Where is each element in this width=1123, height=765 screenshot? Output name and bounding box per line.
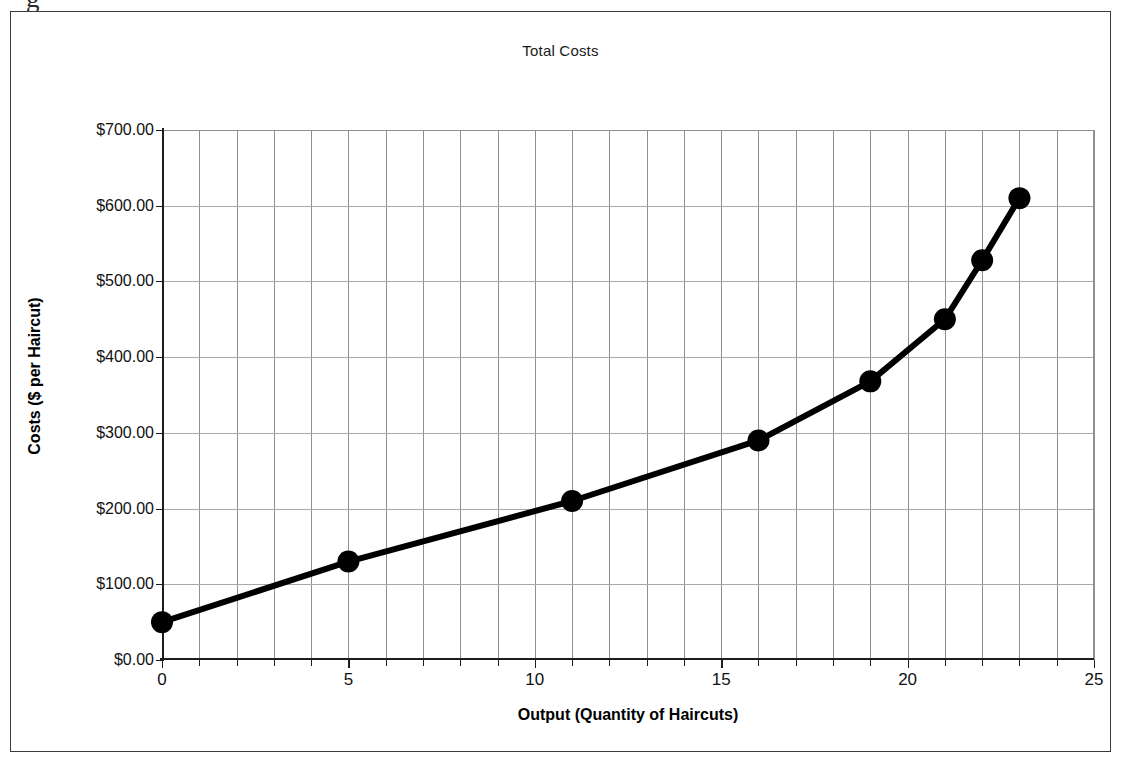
x-axis-tick-minor bbox=[796, 660, 797, 666]
plot-area-wrapper bbox=[162, 130, 1094, 660]
x-axis-tick-minor bbox=[833, 660, 834, 666]
gridline-vertical bbox=[498, 130, 499, 660]
x-axis-title: Output (Quantity of Haircuts) bbox=[162, 706, 1094, 724]
x-axis-tick-label: 10 bbox=[525, 670, 544, 690]
gridline-vertical bbox=[572, 130, 573, 660]
y-axis-tick-label: $400.00 bbox=[96, 348, 154, 366]
x-axis-tick-major bbox=[1094, 660, 1095, 668]
gridline-vertical bbox=[796, 130, 797, 660]
gridline-horizontal bbox=[162, 433, 1094, 434]
x-axis-tick-minor bbox=[758, 660, 759, 666]
x-axis-line bbox=[160, 658, 1094, 660]
gridline-vertical bbox=[199, 130, 200, 660]
x-axis-tick-minor bbox=[647, 660, 648, 666]
gridline-vertical bbox=[721, 130, 722, 660]
x-axis-tick-label: 15 bbox=[712, 670, 731, 690]
x-axis-tick-minor bbox=[1057, 660, 1058, 666]
x-axis-tick-minor bbox=[982, 660, 983, 666]
gridline-vertical bbox=[684, 130, 685, 660]
y-axis-tick-label: $700.00 bbox=[96, 121, 154, 139]
gridline-vertical bbox=[423, 130, 424, 660]
y-axis-tick-label: $600.00 bbox=[96, 197, 154, 215]
y-axis-tick-labels: $0.00$100.00$200.00$300.00$400.00$500.00… bbox=[66, 130, 154, 660]
series-line bbox=[162, 198, 1019, 622]
x-axis-tick-minor bbox=[460, 660, 461, 666]
x-axis-tick-labels: 0510152025 bbox=[162, 670, 1094, 696]
gridline-vertical bbox=[1094, 130, 1095, 660]
gridline-vertical bbox=[535, 130, 536, 660]
y-axis-tick-label: $0.00 bbox=[114, 651, 154, 669]
y-axis-tick-label: $200.00 bbox=[96, 500, 154, 518]
x-axis-tick-minor bbox=[199, 660, 200, 666]
y-axis-tick-label: $500.00 bbox=[96, 272, 154, 290]
x-axis-tick-minor bbox=[870, 660, 871, 666]
figure-frame: Total Costs $0.00$100.00$200.00$300.00$4… bbox=[10, 11, 1111, 752]
gridline-vertical bbox=[758, 130, 759, 660]
x-axis-tick-minor bbox=[423, 660, 424, 666]
y-axis-title: Costs ($ per Haircut) bbox=[26, 246, 44, 506]
gridline-horizontal bbox=[162, 357, 1094, 358]
x-axis-tick-major bbox=[721, 660, 722, 668]
gridline-vertical bbox=[237, 130, 238, 660]
gridline-vertical bbox=[386, 130, 387, 660]
gridline-vertical bbox=[1019, 130, 1020, 660]
gridline-vertical bbox=[982, 130, 983, 660]
plot-border-top bbox=[162, 130, 1094, 131]
gridline-vertical bbox=[945, 130, 946, 660]
x-axis-tick-major bbox=[162, 660, 163, 668]
x-axis-tick-label: 5 bbox=[344, 670, 353, 690]
gridline-horizontal bbox=[162, 584, 1094, 585]
gridline-vertical bbox=[908, 130, 909, 660]
x-axis-tick-label: 0 bbox=[157, 670, 166, 690]
x-axis-tick-major bbox=[535, 660, 536, 668]
x-axis-tick-minor bbox=[609, 660, 610, 666]
gridline-horizontal bbox=[162, 509, 1094, 510]
x-axis-tick-major bbox=[908, 660, 909, 668]
gridline-horizontal bbox=[162, 281, 1094, 282]
gridline-vertical bbox=[870, 130, 871, 660]
x-axis-tick-label: 20 bbox=[898, 670, 917, 690]
plot-border-right bbox=[1093, 130, 1094, 660]
x-axis-tick-minor bbox=[498, 660, 499, 666]
gridline-vertical bbox=[460, 130, 461, 660]
gridline-vertical bbox=[609, 130, 610, 660]
x-axis-tick-minor bbox=[386, 660, 387, 666]
plot-area bbox=[162, 130, 1094, 660]
gridline-vertical bbox=[348, 130, 349, 660]
gridline-vertical bbox=[311, 130, 312, 660]
x-axis-tick-minor bbox=[945, 660, 946, 666]
x-axis-tick-minor bbox=[311, 660, 312, 666]
gridline-vertical bbox=[647, 130, 648, 660]
x-axis-tick-minor bbox=[684, 660, 685, 666]
x-axis-tick-label: 25 bbox=[1085, 670, 1104, 690]
x-axis-tick-minor bbox=[1019, 660, 1020, 666]
y-axis-tick-label: $100.00 bbox=[96, 575, 154, 593]
x-axis-tick-minor bbox=[274, 660, 275, 666]
gridline-vertical bbox=[274, 130, 275, 660]
y-axis-tick-label: $300.00 bbox=[96, 424, 154, 442]
series-total-costs bbox=[162, 130, 1094, 660]
x-axis-tick-minor bbox=[572, 660, 573, 666]
gridline-horizontal bbox=[162, 206, 1094, 207]
y-axis-line bbox=[162, 128, 164, 661]
gridline-vertical bbox=[1057, 130, 1058, 660]
x-axis-tick-minor bbox=[237, 660, 238, 666]
gridline-vertical bbox=[833, 130, 834, 660]
chart-title: Total Costs bbox=[11, 42, 1110, 59]
x-axis-tick-major bbox=[348, 660, 349, 668]
